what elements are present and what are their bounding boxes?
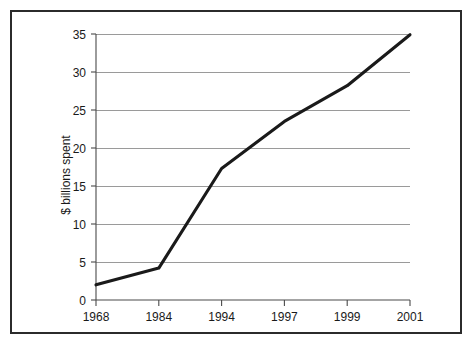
y-axis-title: $ billions spent <box>59 135 73 215</box>
y-axis-tick-label: 25 <box>73 104 87 118</box>
y-axis-tick-label: 20 <box>73 142 87 156</box>
y-axis-tick-label: 5 <box>79 256 86 270</box>
y-axis-tick-label: 10 <box>73 218 87 232</box>
x-axis-tick-label: 1984 <box>145 310 172 324</box>
chart-figure: 05101520253035 196819841994199719992001 … <box>0 0 474 347</box>
x-axis-tick-label: 1994 <box>208 310 235 324</box>
x-axis-tick-label: 1997 <box>271 310 298 324</box>
line-chart-plot: 05101520253035 196819841994199719992001 … <box>0 0 474 347</box>
y-axis-tick-label: 30 <box>73 66 87 80</box>
x-axis-tick-label: 1999 <box>334 310 361 324</box>
y-axis-tick-label: 0 <box>79 294 86 308</box>
gridlines-group <box>96 34 410 262</box>
y-axis-tick-label: 35 <box>73 28 87 42</box>
x-axis-tick-label: 1968 <box>83 310 110 324</box>
y-axis-tick-label: 15 <box>73 180 87 194</box>
x-axis-tick-label: 2001 <box>397 310 424 324</box>
y-axis-ticks-group: 05101520253035 <box>73 28 96 308</box>
x-axis-ticks-group: 196819841994199719992001 <box>83 300 424 324</box>
